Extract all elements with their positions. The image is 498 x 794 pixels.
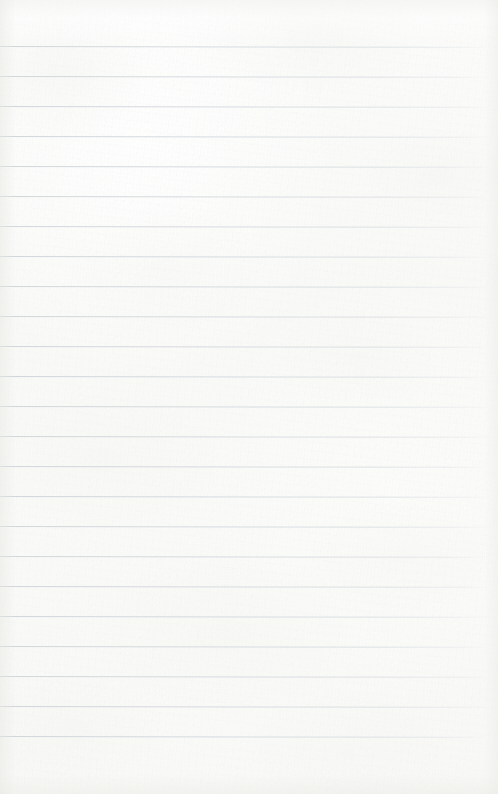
ruled-line — [0, 136, 487, 138]
ruled-line — [0, 286, 488, 288]
ruled-line — [0, 256, 487, 258]
ruled-line — [0, 196, 487, 198]
ruled-lines-group — [0, 0, 498, 794]
ruled-line — [0, 406, 486, 408]
ruled-line — [0, 376, 486, 378]
ruled-line — [0, 736, 486, 738]
ruled-line — [0, 316, 487, 318]
ruled-line — [0, 226, 486, 228]
ruled-line — [0, 496, 486, 498]
ruled-line — [0, 106, 486, 108]
ruled-line — [0, 706, 487, 708]
ruled-line — [0, 436, 487, 438]
ruled-line — [0, 676, 486, 678]
ruled-line — [0, 46, 487, 48]
ruled-line — [0, 166, 488, 168]
ruled-line — [0, 586, 487, 588]
ruled-line — [0, 76, 487, 78]
ruled-line — [0, 526, 486, 528]
ruled-line — [0, 556, 485, 558]
ruled-line — [0, 346, 485, 348]
ruled-line — [0, 646, 485, 648]
notebook-page — [0, 0, 498, 794]
ruled-line — [0, 466, 485, 468]
ruled-line — [0, 616, 486, 618]
